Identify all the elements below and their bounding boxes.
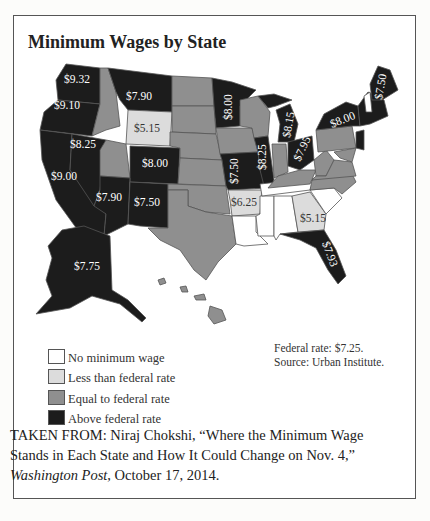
- legend-swatch-none: [48, 349, 65, 364]
- legend-label-equal: Equal to federal rate: [68, 392, 170, 407]
- label-mn: $8.00: [222, 94, 234, 120]
- state-hi-3: [194, 294, 206, 300]
- citation-publication: Washington Post: [10, 467, 107, 483]
- state-ak: [36, 226, 146, 322]
- label-wa: $9.32: [64, 73, 90, 85]
- state-ks: [178, 158, 226, 186]
- label-co: $8.00: [142, 157, 168, 169]
- citation: TAKEN FROM: Niraj Chokshi, “Where the Mi…: [10, 425, 395, 485]
- legend-item-equal: Equal to federal rate: [48, 386, 175, 407]
- legend-label-none: No minimum wage: [68, 351, 165, 366]
- state-ia: [216, 128, 258, 154]
- label-az: $7.90: [96, 191, 122, 203]
- citation-text: TAKEN FROM: Niraj Chokshi, “Where the Mi…: [10, 427, 363, 463]
- state-ut: [100, 140, 130, 178]
- label-ga: $5.15: [300, 212, 326, 224]
- label-ak: $7.75: [74, 260, 100, 272]
- map-note: Federal rate: $7.25. Source: Urban Insti…: [274, 341, 384, 369]
- citation-date: , October 17, 2014.: [107, 467, 219, 483]
- legend-label-below: Less than federal rate: [68, 371, 175, 386]
- state-hi-1: [158, 278, 166, 285]
- legend-item-none: No minimum wage: [48, 345, 175, 366]
- federal-rate-note: Federal rate: $7.25.: [274, 341, 384, 355]
- label-mo: $7.50: [228, 158, 240, 184]
- map-legend: No minimum wage Less than federal rate E…: [48, 345, 175, 427]
- state-hi-2: [180, 286, 188, 292]
- legend-swatch-above: [48, 410, 65, 425]
- label-wy: $5.15: [134, 122, 160, 134]
- legend-item-above: Above federal rate: [48, 407, 175, 428]
- label-ar: $6.25: [231, 196, 257, 208]
- label-nv: $8.25: [70, 138, 96, 150]
- state-in: [272, 144, 288, 178]
- legend-swatch-equal: [48, 390, 65, 405]
- legend-swatch-below: [48, 369, 65, 384]
- state-hi-4: [208, 306, 226, 324]
- legend-item-below: Less than federal rate: [48, 366, 175, 387]
- state-sd: [172, 106, 216, 134]
- label-or: $9.10: [54, 99, 80, 111]
- state-pa: [316, 126, 356, 152]
- label-nm: $7.50: [134, 196, 160, 208]
- label-il: $8.25: [256, 144, 268, 170]
- label-ca: $9.00: [51, 170, 77, 182]
- state-nj: [356, 130, 364, 150]
- source-note: Source: Urban Institute.: [274, 355, 384, 369]
- label-mt: $7.90: [126, 90, 152, 102]
- state-nd: [172, 76, 214, 106]
